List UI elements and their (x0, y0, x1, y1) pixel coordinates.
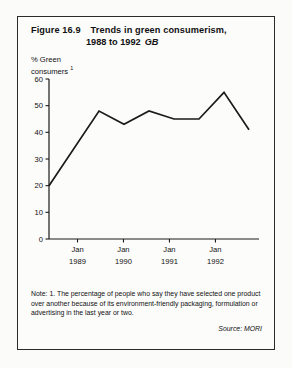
y-axis-ticks: 0102030405060 (35, 75, 49, 244)
x-axis-tick-label-year: 1990 (115, 257, 132, 266)
chart-page: Figure 16.9 Trends in green consumerism,… (0, 0, 292, 368)
x-axis-tick-label-month: Jan (163, 245, 175, 254)
x-axis-tick-label-year: 1991 (161, 257, 178, 266)
figure-source: Source: MORI (218, 325, 262, 332)
figure-card: Figure 16.9 Trends in green consumerism,… (17, 16, 275, 350)
x-axis-ticks: Jan1989Jan1990Jan1991Jan1992 (69, 239, 224, 266)
y-axis-tick-label: 30 (35, 155, 43, 164)
y-axis-tick-label: 50 (35, 101, 43, 110)
x-axis-tick-label-month: Jan (209, 245, 221, 254)
data-series-line (49, 92, 249, 185)
x-axis-tick-label-year: 1989 (69, 257, 86, 266)
x-axis-tick-label-month: Jan (71, 245, 83, 254)
x-axis-tick-label-month: Jan (117, 245, 129, 254)
y-axis-tick-label: 0 (39, 235, 43, 244)
y-axis-tick-label: 10 (35, 208, 43, 217)
y-axis-tick-label: 40 (35, 128, 43, 137)
y-axis-tick-label: 60 (35, 75, 43, 84)
figure-note: Note: 1. The percentage of people who sa… (31, 289, 263, 318)
y-axis-tick-label: 20 (35, 181, 43, 190)
x-axis-tick-label-year: 1992 (207, 257, 224, 266)
